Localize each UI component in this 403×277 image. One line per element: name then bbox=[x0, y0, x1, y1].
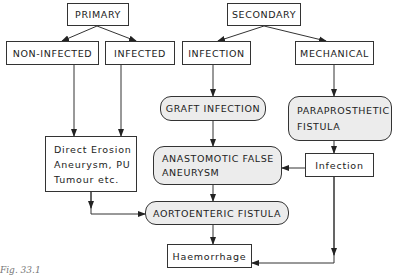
node-anastomotic-false-aneurysm-label: ANASTOMOTIC FALSE ANEURYSM bbox=[162, 152, 274, 180]
node-mechanical: MECHANICAL bbox=[295, 41, 374, 65]
node-paraprosthetic-fistula-label: PARAPROSTHETIC FISTULA bbox=[297, 103, 390, 135]
figure-caption: Fig. 33.1 bbox=[0, 265, 41, 275]
node-secondary-label: SECONDARY bbox=[232, 8, 296, 21]
node-graft-infection: GRAFT INFECTION bbox=[160, 96, 266, 121]
node-aortoenteric-fistula: AORTOENTERIC FISTULA bbox=[145, 201, 289, 225]
node-infection-lower: Infection bbox=[305, 153, 374, 177]
node-anastomotic-false-aneurysm: ANASTOMOTIC FALSE ANEURYSM bbox=[153, 146, 282, 185]
node-non-infected-label: NON-INFECTED bbox=[13, 47, 92, 60]
node-infection-lower-label: Infection bbox=[315, 159, 364, 172]
node-infected-label: INFECTED bbox=[114, 47, 166, 60]
node-mechanical-label: MECHANICAL bbox=[300, 47, 369, 60]
node-aortoenteric-fistula-label: AORTOENTERIC FISTULA bbox=[153, 207, 281, 220]
node-infection-top-label: INFECTION bbox=[188, 47, 245, 60]
node-direct-erosion: Direct Erosion Aneurysm, PU Tumour etc. bbox=[45, 136, 137, 192]
node-graft-infection-label: GRAFT INFECTION bbox=[166, 102, 260, 115]
node-infected: INFECTED bbox=[105, 41, 175, 65]
node-paraprosthetic-fistula: PARAPROSTHETIC FISTULA bbox=[288, 96, 392, 141]
node-primary: PRIMARY bbox=[67, 3, 129, 26]
node-secondary: SECONDARY bbox=[227, 3, 301, 26]
node-haemorrhage: Haemorrhage bbox=[167, 244, 252, 268]
node-haemorrhage-label: Haemorrhage bbox=[173, 250, 247, 263]
node-non-infected: NON-INFECTED bbox=[6, 41, 99, 65]
node-direct-erosion-label: Direct Erosion Aneurysm, PU Tumour etc. bbox=[54, 142, 132, 187]
node-primary-label: PRIMARY bbox=[75, 8, 121, 21]
node-infection-top: INFECTION bbox=[182, 41, 251, 65]
